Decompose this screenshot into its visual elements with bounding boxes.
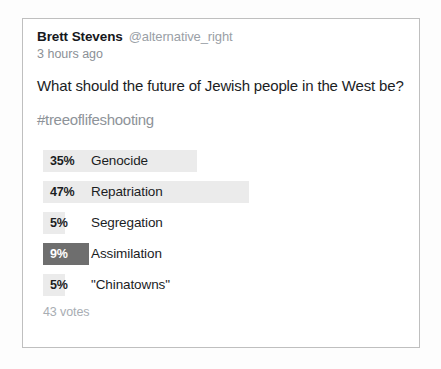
poll-option-row-selected[interactable]: 9% Assimilation [43,243,405,265]
poll-option-label: Genocide [91,150,148,172]
poll-option-row[interactable]: 5% Segregation [43,212,405,234]
poll-option-label: "Chinatowns" [91,274,170,296]
poll-option-label: Segregation [91,212,163,234]
tweet-timestamp[interactable]: 3 hours ago [37,47,405,61]
tweet-hashtag-link[interactable]: #treeoflifeshooting [37,110,405,130]
tweet-question-text: What should the future of Jewish people … [37,76,405,96]
poll: 35% Genocide 47% Repatriation 5% Segrega… [43,150,405,296]
poll-option-row[interactable]: 35% Genocide [43,150,405,172]
poll-option-row[interactable]: 47% Repatriation [43,181,405,203]
poll-option-percent: 35% [50,150,74,172]
poll-option-label: Assimilation [91,243,162,265]
poll-option-percent: 5% [50,212,68,234]
author-name[interactable]: Brett Stevens [37,29,123,44]
author-handle[interactable]: @alternative_right [129,29,233,44]
tweet-card: Brett Stevens @alternative_right 3 hours… [22,18,420,348]
poll-option-percent: 5% [50,274,68,296]
tweet-card-content: Brett Stevens @alternative_right 3 hours… [23,19,419,319]
poll-option-percent: 47% [50,181,74,203]
poll-option-label: Repatriation [91,181,163,203]
poll-vote-count: 43 votes [43,305,405,319]
tweet-header: Brett Stevens @alternative_right [37,29,405,44]
poll-option-row[interactable]: 5% "Chinatowns" [43,274,405,296]
poll-option-percent: 9% [50,243,68,265]
